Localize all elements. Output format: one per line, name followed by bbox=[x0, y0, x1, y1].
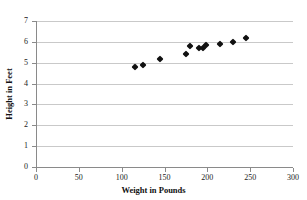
y-tick-label-0: 0 bbox=[6, 163, 28, 171]
y-tick-1 bbox=[32, 146, 37, 147]
x-axis-title: Weight in Pounds bbox=[0, 185, 307, 195]
y-tick-3 bbox=[32, 104, 37, 105]
gridline-y-2 bbox=[36, 125, 293, 126]
x-tick-label-50: 50 bbox=[64, 174, 94, 182]
y-tick-label-2: 2 bbox=[6, 121, 28, 129]
x-tick-label-250: 250 bbox=[235, 174, 265, 182]
gridline-y-5 bbox=[36, 63, 293, 64]
gridline-y-6 bbox=[36, 42, 293, 43]
y-tick-4 bbox=[32, 84, 37, 85]
x-tick-0 bbox=[36, 168, 37, 172]
x-tick-300 bbox=[293, 168, 294, 172]
x-tick-100 bbox=[122, 168, 123, 172]
y-tick-label-4: 4 bbox=[6, 80, 28, 88]
scatter-chart: Weight in Pounds Height in Feet 01234567… bbox=[0, 0, 307, 200]
y-tick-label-6: 6 bbox=[6, 38, 28, 46]
y-tick-label-3: 3 bbox=[6, 100, 28, 108]
y-tick-label-7: 7 bbox=[6, 17, 28, 25]
plot-area bbox=[36, 21, 293, 167]
x-tick-label-100: 100 bbox=[107, 174, 137, 182]
y-tick-5 bbox=[32, 63, 37, 64]
x-tick-label-300: 300 bbox=[278, 174, 307, 182]
x-tick-label-200: 200 bbox=[192, 174, 222, 182]
y-axis-title-wrap: Height in Feet bbox=[2, 0, 16, 188]
y-tick-2 bbox=[32, 125, 37, 126]
x-tick-50 bbox=[79, 168, 80, 172]
x-tick-150 bbox=[165, 168, 166, 172]
x-tick-250 bbox=[250, 168, 251, 172]
gridline-y-7 bbox=[36, 21, 293, 22]
y-tick-label-5: 5 bbox=[6, 59, 28, 67]
gridline-y-3 bbox=[36, 104, 293, 105]
x-tick-200 bbox=[207, 168, 208, 172]
x-tick-label-0: 0 bbox=[21, 174, 51, 182]
gridline-y-4 bbox=[36, 84, 293, 85]
y-tick-6 bbox=[32, 42, 37, 43]
y-tick-label-1: 1 bbox=[6, 142, 28, 150]
y-axis-title: Height in Feet bbox=[4, 68, 14, 119]
y-axis-line bbox=[36, 21, 37, 167]
gridline-y-1 bbox=[36, 146, 293, 147]
x-tick-label-150: 150 bbox=[150, 174, 180, 182]
y-tick-7 bbox=[32, 21, 37, 22]
